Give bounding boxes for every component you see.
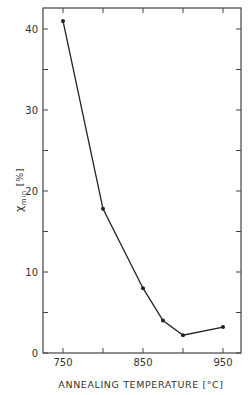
y-tick-label: 40	[25, 24, 38, 35]
data-point	[221, 325, 225, 329]
data-point	[161, 319, 165, 323]
plot-frame	[43, 8, 241, 353]
y-axis-label-sub: min	[20, 190, 28, 205]
x-tick-label: 750	[53, 357, 72, 368]
y-axis-label-unit: [%]	[14, 168, 25, 186]
data-point	[101, 207, 105, 211]
x-tick-label: 950	[213, 357, 232, 368]
data-point	[61, 19, 65, 23]
y-axis-label-main: χ	[13, 205, 26, 212]
data-point	[181, 333, 185, 337]
data-point	[141, 286, 145, 290]
plot-border	[43, 8, 241, 353]
y-tick-label: 30	[25, 105, 38, 116]
data-series	[61, 19, 225, 337]
axis-ticks: 750850950010203040	[25, 8, 241, 368]
chart: 750850950010203040 ANNEALING TEMPERATURE…	[0, 0, 251, 395]
y-tick-label: 0	[32, 348, 38, 359]
y-tick-label: 10	[25, 267, 38, 278]
x-axis-label: ANNEALING TEMPERATURE [°C]	[58, 379, 223, 390]
x-tick-label: 850	[133, 357, 152, 368]
